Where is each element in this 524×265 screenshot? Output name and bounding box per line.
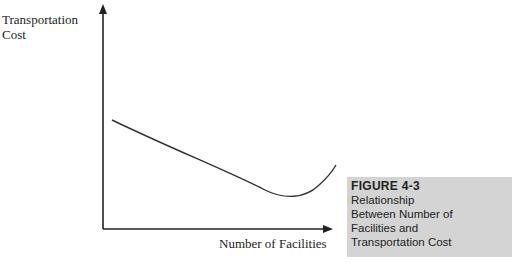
figure-caption: FIGURE 4-3 Relationship Between Number o… (347, 177, 512, 257)
cost-curve (112, 120, 336, 196)
caption-text: Relationship Between Number of Facilitie… (351, 193, 508, 249)
caption-title: FIGURE 4-3 (351, 180, 508, 193)
x-axis-arrow-icon (323, 225, 333, 233)
x-axis-label: Number of Facilities (219, 236, 327, 251)
caption-line: Relationship (351, 193, 508, 207)
caption-line: Transportation Cost (351, 235, 508, 249)
y-axis-arrow-icon (99, 4, 107, 14)
caption-line: Between Number of (351, 207, 508, 221)
caption-line: Facilities and (351, 221, 508, 235)
